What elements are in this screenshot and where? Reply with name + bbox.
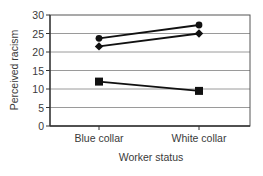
series-circle: [96, 22, 203, 42]
x-axis-title: Worker status: [119, 151, 184, 163]
line-chart: 30 25 20 15 10 5 0 Blue collar White col…: [0, 0, 263, 176]
square-marker: [195, 87, 203, 95]
y-tick-labels: 30 25 20 15 10 5 0: [32, 9, 44, 132]
square-marker: [95, 78, 103, 86]
y-axis-title: Perceived racism: [8, 29, 20, 110]
y-tick-10: 10: [32, 83, 44, 95]
y-tick-5: 5: [38, 102, 44, 114]
y-tick-25: 25: [32, 28, 44, 40]
circle-marker: [196, 22, 203, 29]
diamond-marker: [95, 42, 103, 50]
y-tick-15: 15: [32, 65, 44, 77]
diamond-marker: [195, 29, 203, 37]
circle-marker: [96, 35, 103, 42]
x-tick-white-collar: White collar: [172, 132, 227, 144]
y-tick-0: 0: [38, 120, 44, 132]
y-tick-20: 20: [32, 46, 44, 58]
gridlines: [50, 34, 250, 108]
x-tick-blue-collar: Blue collar: [74, 132, 124, 144]
series-square: [95, 78, 203, 95]
y-tick-30: 30: [32, 9, 44, 21]
